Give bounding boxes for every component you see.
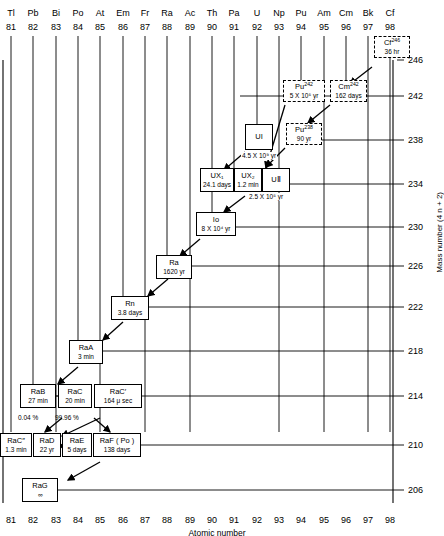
nuclide-name: RaB — [31, 388, 46, 396]
nuclide-name: RaC″ — [7, 437, 25, 445]
nuclide-name: RaF ( Po ) — [100, 437, 135, 445]
nuclide-half-life: 1.2 min — [237, 181, 258, 189]
gridlines — [58, 60, 404, 490]
element-symbol: Cf — [375, 8, 405, 18]
nuclide-name: UI — [255, 133, 263, 141]
nuclide-name: UX₁ — [211, 172, 224, 180]
nuclide-box-rae[interactable]: RaE 5 days — [62, 433, 92, 457]
mass-number-label: 238 — [408, 135, 436, 145]
branch-fraction-beta: 99.96 % — [55, 414, 79, 422]
element-ticks — [11, 36, 390, 60]
nuclide-half-life: 20 min — [65, 397, 85, 405]
nuclide-name: RaE — [70, 437, 85, 445]
nuclide-box-rag[interactable]: RaG ∞ — [22, 478, 58, 502]
nuclide-box-pu242[interactable]: Pu242 5 X 10⁵ yr — [283, 80, 325, 102]
x-axis-title: Atomic number — [0, 528, 434, 536]
nuclide-name: RaD — [39, 437, 54, 445]
nuclide-name: RaC′ — [110, 388, 126, 396]
nuclide-box-pu238[interactable]: Pu238 90 yr — [286, 123, 322, 145]
nuclide-box-raa[interactable]: RaA 3 min — [69, 340, 103, 364]
nuclide-half-life: 36 hr — [385, 48, 400, 56]
nuclide-half-life: 22 yr — [40, 446, 54, 454]
nuclide-name: Cm242 — [338, 83, 358, 91]
nuclide-name: Rn — [125, 300, 135, 308]
mass-number-label: 218 — [408, 346, 436, 356]
half-life-uii: 2.5 X 10⁵ yr — [248, 193, 284, 201]
nuclide-half-life: 5 X 10⁵ yr — [290, 92, 319, 100]
atomic-number-top: 98 — [375, 22, 405, 32]
mass-number-label: 226 — [408, 261, 436, 271]
nuclide-box-rac[interactable]: RaC 20 min — [58, 384, 92, 408]
mass-number-label: 242 — [408, 91, 436, 101]
nuclide-box-rad[interactable]: RaD 22 yr — [33, 433, 61, 457]
nuclide-half-life: 8 X 10⁴ yr — [202, 225, 231, 233]
mass-number-label: 206 — [408, 485, 436, 495]
nuclide-half-life: 90 yr — [297, 135, 311, 143]
nuclide-box-ux2[interactable]: UX₂ 1.2 min — [234, 168, 262, 192]
nuclide-box-cf246[interactable]: Cf246 36 hr — [374, 36, 410, 58]
nuclide-box-ux1[interactable]: UX₁ 24.1 days — [200, 168, 234, 192]
nuclide-name: Ra — [169, 259, 179, 267]
nuclide-box-ui[interactable]: UI — [245, 124, 273, 150]
nuclide-box-rn[interactable]: Rn 3.8 days — [111, 296, 149, 320]
nuclide-name: RaA — [79, 344, 94, 352]
nuclide-half-life: 1620 yr — [163, 268, 185, 276]
nuclide-box-rac-prime[interactable]: RaC′ 164 μ sec — [94, 384, 142, 408]
nuclide-box-raf[interactable]: RaF ( Po ) 138 days — [93, 433, 141, 457]
mass-number-label: 230 — [408, 222, 436, 232]
nuclide-name: UⅡ — [271, 176, 280, 184]
nuclide-name: UX₂ — [241, 172, 254, 180]
mass-number-label: 210 — [408, 440, 436, 450]
mass-number-label: 222 — [408, 302, 436, 312]
nuclide-half-life: 3 min — [78, 353, 94, 361]
nuclide-half-life: 164 μ sec — [104, 397, 132, 405]
nuclide-half-life: 27 min — [28, 397, 48, 405]
nuclide-half-life: 24.1 days — [203, 181, 231, 189]
nuclide-box-ra[interactable]: Ra 1620 yr — [156, 255, 192, 279]
nuclide-half-life: ∞ — [38, 491, 42, 499]
nuclide-half-life: 5 days — [67, 446, 86, 454]
y-axis-title: Mass number (4 n + 2) — [435, 192, 444, 273]
nuclide-half-life: 3.8 days — [118, 309, 143, 317]
nuclide-box-rac-double-prime[interactable]: RaC″ 1.3 min — [0, 433, 32, 457]
mass-number-label: 234 — [408, 179, 436, 189]
nuclide-box-cm242[interactable]: Cm242 162 days — [330, 80, 367, 102]
nuclide-name: Cf246 — [384, 39, 400, 47]
nuclide-box-io[interactable]: Io 8 X 10⁴ yr — [196, 212, 236, 236]
atomic-number-bottom: 98 — [375, 515, 405, 525]
nuclide-half-life: 138 days — [104, 446, 130, 454]
nuclide-name: RaG — [32, 482, 47, 490]
half-life-ui: 4.5 X 10⁹ yr — [241, 152, 277, 160]
nuclide-name: Pu238 — [295, 126, 313, 134]
nuclide-half-life: 162 days — [335, 92, 361, 100]
nuclide-name: RaC — [67, 388, 82, 396]
nuclide-name: Pu242 — [295, 83, 313, 91]
nuclide-box-rab[interactable]: RaB 27 min — [20, 384, 56, 408]
nuclide-box-uii[interactable]: UⅡ — [262, 168, 290, 192]
nuclide-half-life: 1.3 min — [5, 446, 26, 454]
mass-number-label: 214 — [408, 391, 436, 401]
mass-number-label: 246 — [408, 55, 436, 65]
branch-fraction-alpha: 0.04 % — [18, 414, 38, 422]
nuclide-name: Io — [213, 216, 219, 224]
